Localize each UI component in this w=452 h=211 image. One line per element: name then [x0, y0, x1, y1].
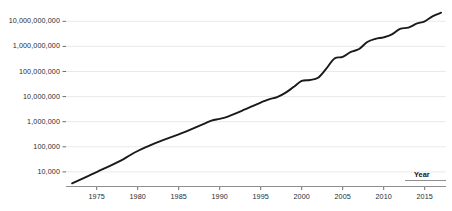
x-tick-label: 2010: [364, 193, 404, 200]
x-tick-label: 1985: [159, 193, 199, 200]
y-tick-label: 1,000,000,000: [13, 42, 60, 49]
data-series-line: [72, 13, 441, 184]
y-tick-label: 10,000,000,000: [9, 17, 60, 24]
x-tick-label: 2005: [323, 193, 363, 200]
x-tick-label: 1980: [118, 193, 158, 200]
y-tick-mark-group: [63, 21, 67, 172]
y-tick-label: 100,000,000: [19, 68, 60, 75]
gridline-group: [66, 21, 446, 172]
y-tick-label: 10,000,000: [23, 93, 60, 100]
x-axis-title: Year: [414, 171, 430, 178]
x-tick-label: 2000: [282, 193, 322, 200]
x-tick-label: 1975: [77, 193, 117, 200]
y-tick-label: 10,000: [37, 168, 60, 175]
y-tick-label: 1,000,000: [27, 118, 60, 125]
x-tick-label: 2015: [405, 193, 445, 200]
y-tick-label: 100,000: [33, 143, 60, 150]
x-tick-label: 1995: [241, 193, 281, 200]
x-tick-label: 1990: [200, 193, 240, 200]
chart-plot-area: [0, 0, 452, 211]
chart-container: 10,000100,0001,000,00010,000,000100,000,…: [0, 0, 452, 211]
